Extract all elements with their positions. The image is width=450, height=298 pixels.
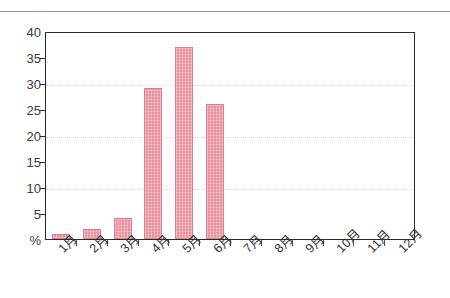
y-tick-label: 30 xyxy=(3,78,41,91)
y-tick-label: 40 xyxy=(3,26,41,39)
y-tick-label: 35 xyxy=(3,52,41,65)
plot-area xyxy=(45,32,415,240)
bar-slot xyxy=(138,33,169,239)
top-divider-rule xyxy=(0,11,450,12)
y-tick-label: % xyxy=(3,234,41,247)
bar-slot xyxy=(353,33,384,239)
y-axis: %510152025303540 xyxy=(0,32,41,240)
bars-layer xyxy=(46,33,414,239)
y-tick-label: 20 xyxy=(3,130,41,143)
bar-slot xyxy=(77,33,108,239)
bar-slot xyxy=(199,33,230,239)
y-tick-label: 5 xyxy=(3,208,41,221)
bar-slot xyxy=(169,33,200,239)
bar-slot xyxy=(107,33,138,239)
bar-slot xyxy=(46,33,77,239)
bar[interactable] xyxy=(144,88,162,239)
bar-chart-figure: %510152025303540 1月2月3月4月5月6月7月8月9月10月11… xyxy=(0,0,450,298)
bar-slot xyxy=(261,33,292,239)
x-axis-labels: 1月2月3月4月5月6月7月8月9月10月11月12月 xyxy=(45,243,415,298)
bar-slot xyxy=(291,33,322,239)
bar[interactable] xyxy=(175,47,193,239)
bar-slot xyxy=(230,33,261,239)
y-tick-label: 10 xyxy=(3,182,41,195)
bar-slot xyxy=(383,33,414,239)
bar[interactable] xyxy=(206,104,224,239)
y-tick-label: 25 xyxy=(3,104,41,117)
y-tick-label: 15 xyxy=(3,156,41,169)
bar-slot xyxy=(322,33,353,239)
